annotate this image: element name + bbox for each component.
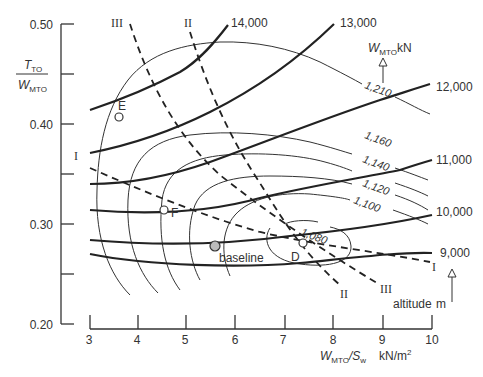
point-baseline-marker xyxy=(210,241,220,251)
altitude-label-12000: 12,000 xyxy=(436,80,473,94)
y-tick-label: 0.30 xyxy=(30,218,54,232)
point-F-label: F xyxy=(171,206,178,220)
altitude-label-14000: 14,000 xyxy=(231,16,268,30)
weight-legend: WMTOkN xyxy=(368,41,412,83)
altitude-label-13000: 13,000 xyxy=(340,16,377,30)
point-D-label: D xyxy=(291,250,300,264)
contour-label-1160: 1,160 xyxy=(363,129,394,150)
svg-text:altitude: altitude xyxy=(393,297,432,311)
constraint-label-III: III xyxy=(111,16,123,30)
y-tick-label: 0.50 xyxy=(30,18,54,32)
point-F-marker xyxy=(160,206,168,214)
x-axis-label: WMTO/Sw kN/m2 xyxy=(320,348,412,365)
constraint-label-II: II xyxy=(184,16,192,30)
svg-text:kN/m2: kN/m2 xyxy=(379,348,412,363)
y-axis xyxy=(61,24,74,324)
y-tick-label: 0.40 xyxy=(30,118,54,132)
arrow-head-icon xyxy=(379,58,387,66)
constraint-lines xyxy=(90,24,430,285)
x-tick-label: 7 xyxy=(280,333,287,347)
x-tick-label: 4 xyxy=(134,333,141,347)
arrow-head-icon xyxy=(448,269,456,277)
point-D-marker xyxy=(299,239,307,247)
x-tick-label: 3 xyxy=(86,333,93,347)
contour-label-1120: 1,120 xyxy=(361,177,392,198)
altitude-10000 xyxy=(90,215,432,243)
svg-text:WMTOkN: WMTOkN xyxy=(368,41,412,57)
y-tick-label: 0.20 xyxy=(30,318,54,332)
design-points: E F baseline D xyxy=(115,99,307,265)
point-baseline-label: baseline xyxy=(219,251,264,265)
svg-text:WMTO/Sw: WMTO/Sw xyxy=(320,349,366,365)
constraint-label-III-bottom: III xyxy=(380,282,392,296)
contour-label-1140: 1,140 xyxy=(361,153,392,174)
y-axis-label: TTO WMTO xyxy=(16,58,48,94)
altitude-label-10000: 10,000 xyxy=(436,205,473,219)
contour-1140 xyxy=(161,154,428,290)
x-tick-label: 6 xyxy=(232,333,239,347)
point-E-label: E xyxy=(118,99,126,113)
contour-label-1100: 1,100 xyxy=(352,194,383,215)
x-tick-label: 9 xyxy=(379,333,386,347)
constraint-label-I-right: I xyxy=(432,260,436,274)
x-tick-label: 5 xyxy=(182,333,189,347)
altitude-label-9000: 9,000 xyxy=(440,246,470,260)
x-tick-label: 10 xyxy=(425,333,439,347)
svg-text:TTO: TTO xyxy=(24,58,42,74)
point-E-marker xyxy=(115,113,123,121)
carpet-plot: 0.50 0.40 0.30 0.20 TTO WMTO 3 4 5 6 7 8… xyxy=(0,0,483,377)
x-axis xyxy=(90,315,432,329)
altitude-legend: altitude m xyxy=(393,269,456,311)
altitude-label-11000: 11,000 xyxy=(436,153,472,167)
constraint-label-II-bottom: II xyxy=(340,287,348,301)
altitude-14000 xyxy=(90,25,228,110)
svg-text:WMTO: WMTO xyxy=(18,78,47,94)
constraint-label-I: I xyxy=(74,149,78,163)
svg-text:m: m xyxy=(436,297,446,311)
x-tick-label: 8 xyxy=(330,333,337,347)
